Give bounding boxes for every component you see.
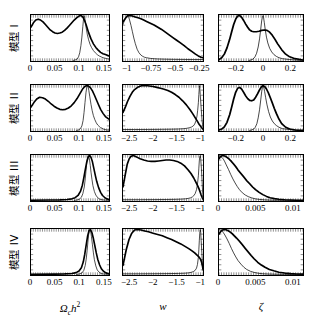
curve-thick [31, 16, 109, 56]
curve-thick [219, 86, 303, 131]
tick-labels-r3c2: −2.5−2−1.5−1 [122, 202, 204, 215]
axis-title-omega-c-h2: Ωch2 [60, 300, 81, 317]
tick-labels-r3c1: 00.050.10.15 [30, 202, 110, 215]
curves-r4c3 [219, 229, 303, 275]
posterior-distribution-figure: 模型 I模型 II模型 III模型 IV00.050.10.15−1−0.75−… [0, 0, 319, 326]
curve-thin [219, 230, 303, 275]
axis-title-zeta: ζ [259, 300, 263, 312]
plot-panel-r1c2 [122, 14, 204, 62]
tick-label: 0 [261, 132, 266, 145]
plot-panel-r1c1 [30, 14, 110, 62]
tick-label: −0.25 [189, 62, 210, 75]
row-label-3: 模型 III [7, 148, 21, 208]
curve-thin [123, 156, 203, 200]
tick-labels-r4c3: 00.0050.01 [218, 276, 304, 289]
curves-r2c3 [219, 85, 303, 131]
tick-label: −2 [148, 132, 158, 145]
plot-panel-r2c2 [122, 84, 204, 132]
row-label-4: 模型 IV [7, 222, 21, 282]
tick-label: 0 [216, 202, 221, 215]
curve-thick [123, 156, 203, 200]
curve-thick [123, 230, 203, 269]
curve-thick [31, 156, 109, 201]
tick-labels-r1c3: −0.200.2 [218, 62, 304, 75]
tick-label: 0.05 [47, 62, 63, 75]
tick-labels-r2c1: 00.050.10.15 [30, 132, 110, 145]
tick-label: 0.05 [47, 276, 63, 289]
tick-label: 0.01 [285, 276, 301, 289]
curves-r3c3 [219, 155, 303, 201]
tick-label: 0.01 [285, 202, 301, 215]
tick-label: 0.1 [74, 62, 85, 75]
curve-thick [123, 16, 203, 58]
axis-title-w: w [159, 300, 166, 312]
tick-labels-r2c2: −2.5−2−1.5−1 [122, 132, 204, 145]
tick-label: −0.2 [228, 132, 244, 145]
tick-label: 0.005 [245, 276, 265, 289]
curves-r1c2 [123, 15, 203, 61]
tick-label: −0.5 [167, 62, 183, 75]
tick-label: −1 [122, 62, 132, 75]
plot-panel-r3c1 [30, 154, 110, 202]
tick-label: 0 [28, 132, 33, 145]
tick-label: 0 [216, 276, 221, 289]
curve-thick [31, 86, 109, 120]
curves-r1c1 [31, 15, 109, 61]
tick-label: −2.5 [121, 276, 137, 289]
tick-label: −0.75 [141, 62, 162, 75]
tick-label: 0 [28, 276, 33, 289]
curves-r3c1 [31, 155, 109, 201]
tick-labels-r4c1: 00.050.10.15 [30, 276, 110, 289]
curves-r1c3 [219, 15, 303, 61]
plot-panel-r4c1 [30, 228, 110, 276]
axis-title-text: w [159, 300, 166, 312]
tick-label: −0.2 [228, 62, 244, 75]
curves-r4c2 [123, 229, 203, 275]
tick-label: −1.5 [168, 132, 184, 145]
tick-label: 0 [28, 62, 33, 75]
plot-panel-r4c3 [218, 228, 304, 276]
tick-label: 0.1 [74, 276, 85, 289]
plot-panel-r3c3 [218, 154, 304, 202]
axis-title-text: Ω [60, 302, 68, 314]
curve-thick [219, 156, 303, 201]
plot-panel-r2c1 [30, 84, 110, 132]
tick-label: −1.5 [168, 276, 184, 289]
tick-label: 0.05 [47, 202, 63, 215]
curve-thin [123, 16, 203, 60]
tick-labels-r2c3: −0.200.2 [218, 132, 304, 145]
tick-label: −2 [148, 276, 158, 289]
tick-label: 0.05 [47, 132, 63, 145]
tick-labels-r1c2: −1−0.75−0.5−0.25 [122, 62, 204, 75]
tick-label: 0.15 [96, 276, 112, 289]
tick-label: 0.005 [245, 202, 265, 215]
tick-label: 0.2 [285, 62, 296, 75]
plot-panel-r3c2 [122, 154, 204, 202]
tick-label: −2.5 [121, 202, 137, 215]
tick-label: −1 [195, 276, 205, 289]
curve-thin [249, 16, 303, 61]
tick-label: 0 [28, 202, 33, 215]
tick-label: 0.15 [96, 132, 112, 145]
plot-panel-r1c3 [218, 14, 304, 62]
curves-r3c2 [123, 155, 203, 201]
row-label-2: 模型 II [7, 78, 21, 138]
curves-r4c1 [31, 229, 109, 275]
curve-thin [123, 86, 203, 130]
tick-label: −1 [195, 132, 205, 145]
row-label-1: 模型 I [7, 8, 21, 68]
tick-label: −2.5 [121, 132, 137, 145]
tick-label: −1 [195, 202, 205, 215]
tick-labels-r3c3: 00.0050.01 [218, 202, 304, 215]
curve-thick [31, 230, 109, 275]
tick-label: −2 [148, 202, 158, 215]
curve-thick [219, 16, 303, 60]
curve-thick [123, 86, 203, 130]
curve-thick [219, 230, 303, 275]
tick-label: 0.1 [74, 202, 85, 215]
curves-r2c1 [31, 85, 109, 131]
tick-label: 0.15 [96, 202, 112, 215]
tick-labels-r4c2: −2.5−2−1.5−1 [122, 276, 204, 289]
axis-title-sup: 2 [77, 300, 81, 309]
tick-labels-r1c1: 00.050.10.15 [30, 62, 110, 75]
